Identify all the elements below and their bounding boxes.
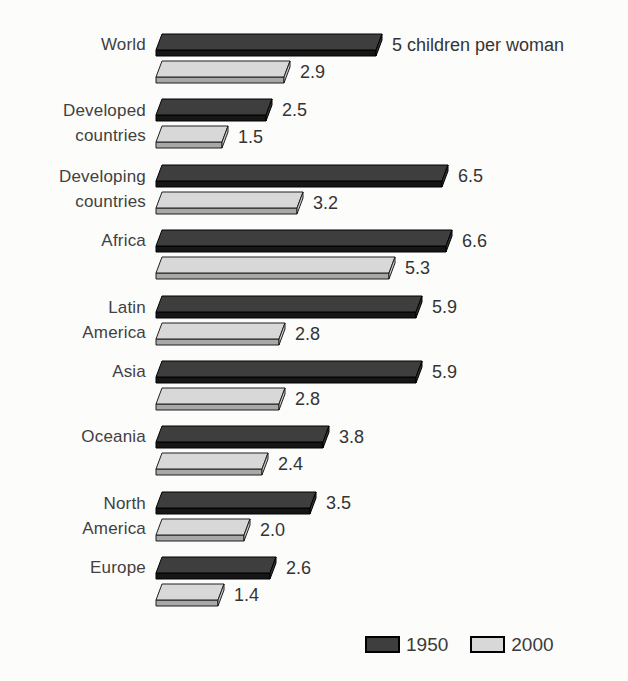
top-face	[156, 426, 329, 442]
front-face	[156, 208, 297, 214]
value-label-1950-developed-countries: 2.5	[282, 98, 307, 122]
top-face	[156, 99, 272, 115]
bar-1950-developing-countries	[155, 164, 450, 189]
value-label-1950-asia: 5.9	[432, 360, 457, 384]
front-face	[156, 535, 244, 541]
top-face	[156, 519, 250, 535]
top-face	[156, 492, 316, 508]
bar-1950-world	[155, 33, 384, 58]
bar-1950-asia	[155, 360, 424, 385]
front-face	[156, 50, 376, 56]
top-face	[156, 230, 452, 246]
bar-2000-latin-america	[155, 322, 287, 347]
chart-row-latin-america: LatinAmerica5.92.8	[0, 295, 628, 347]
front-face	[156, 312, 416, 318]
value-label-1950-oceania: 3.8	[339, 425, 364, 449]
fertility-chart-figure: World5 children per woman2.9Developedcou…	[0, 0, 628, 681]
value-label-2000-latin-america: 2.8	[295, 322, 320, 346]
top-face	[156, 126, 228, 142]
front-face	[156, 404, 279, 410]
value-label-2000-asia: 2.8	[295, 387, 320, 411]
value-label-2000-world: 2.9	[300, 60, 325, 84]
bar-1950-developed-countries	[155, 98, 274, 123]
front-face	[156, 600, 218, 606]
bar-1950-north-america	[155, 491, 318, 516]
chart-row-oceania: Oceania3.82.4	[0, 425, 628, 477]
category-label-developing-countries: Developingcountries	[0, 164, 146, 214]
bar-1950-africa	[155, 229, 454, 254]
top-face	[156, 61, 290, 77]
front-face	[156, 442, 323, 448]
top-face	[156, 257, 395, 273]
front-face	[156, 377, 416, 383]
bar-1950-oceania	[155, 425, 331, 450]
category-label-africa: Africa	[0, 229, 146, 253]
top-face	[156, 557, 276, 573]
category-label-north-america: NorthAmerica	[0, 491, 146, 541]
bar-2000-world	[155, 60, 292, 85]
bar-2000-developed-countries	[155, 125, 230, 150]
front-face	[156, 508, 310, 514]
bar-2000-developing-countries	[155, 191, 305, 216]
chart-row-north-america: NorthAmerica3.52.0	[0, 491, 628, 543]
top-face	[156, 296, 422, 312]
value-label-2000-developed-countries: 1.5	[238, 125, 263, 149]
value-label-1950-world: 5 children per woman	[392, 33, 564, 57]
value-label-2000-developing-countries: 3.2	[313, 191, 338, 215]
legend: 1950 2000	[365, 635, 554, 654]
top-face	[156, 388, 285, 404]
category-label-latin-america: LatinAmerica	[0, 295, 146, 345]
top-face	[156, 323, 285, 339]
category-label-world: World	[0, 33, 146, 57]
top-face	[156, 361, 422, 377]
bar-2000-europe	[155, 583, 226, 608]
front-face	[156, 181, 442, 187]
bar-chart: World5 children per woman2.9Developedcou…	[0, 0, 628, 620]
legend-swatch-1950-icon	[365, 636, 400, 653]
bar-1950-latin-america	[155, 295, 424, 320]
chart-row-asia: Asia5.92.8	[0, 360, 628, 412]
legend-label-2000: 2000	[511, 635, 553, 654]
value-label-1950-developing-countries: 6.5	[458, 164, 483, 188]
top-face	[156, 34, 382, 50]
legend-swatch-2000-icon	[470, 636, 505, 653]
category-label-developed-countries: Developedcountries	[0, 98, 146, 148]
value-label-2000-north-america: 2.0	[260, 518, 285, 542]
top-face	[156, 584, 224, 600]
top-face	[156, 165, 448, 181]
bar-2000-north-america	[155, 518, 252, 543]
front-face	[156, 142, 222, 148]
front-face	[156, 273, 389, 279]
value-label-1950-north-america: 3.5	[326, 491, 351, 515]
chart-row-world: World5 children per woman2.9	[0, 33, 628, 85]
bar-2000-oceania	[155, 452, 270, 477]
front-face	[156, 339, 279, 345]
front-face	[156, 115, 266, 121]
top-face	[156, 453, 268, 469]
category-label-europe: Europe	[0, 556, 146, 580]
top-face	[156, 192, 303, 208]
category-label-asia: Asia	[0, 360, 146, 384]
legend-label-1950: 1950	[406, 635, 448, 654]
bar-2000-asia	[155, 387, 287, 412]
value-label-1950-africa: 6.6	[462, 229, 487, 253]
value-label-2000-oceania: 2.4	[278, 452, 303, 476]
chart-row-developing-countries: Developingcountries6.53.2	[0, 164, 628, 216]
value-label-2000-europe: 1.4	[234, 583, 259, 607]
value-label-1950-europe: 2.6	[286, 556, 311, 580]
value-label-2000-africa: 5.3	[405, 256, 430, 280]
category-label-oceania: Oceania	[0, 425, 146, 449]
front-face	[156, 469, 262, 475]
chart-row-developed-countries: Developedcountries2.51.5	[0, 98, 628, 150]
front-face	[156, 77, 284, 83]
value-label-1950-latin-america: 5.9	[432, 295, 457, 319]
chart-row-africa: Africa6.65.3	[0, 229, 628, 281]
front-face	[156, 573, 270, 579]
bar-1950-europe	[155, 556, 278, 581]
chart-row-europe: Europe2.61.4	[0, 556, 628, 608]
bar-2000-africa	[155, 256, 397, 281]
front-face	[156, 246, 446, 252]
